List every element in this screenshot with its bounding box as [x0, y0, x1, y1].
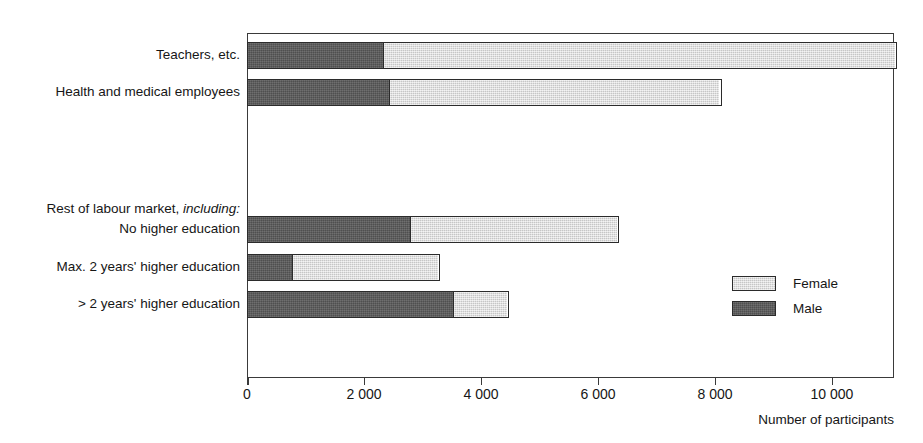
bar-no-higher-education	[247, 216, 619, 243]
bar-segment-female	[390, 80, 720, 105]
bar-segment-male	[248, 292, 454, 317]
x-axis-tick	[364, 378, 366, 385]
x-axis-tick	[247, 378, 249, 385]
category-label-max-2-years: Max. 2 years' higher education	[0, 259, 240, 275]
x-axis-title: Number of participants	[758, 412, 894, 427]
bar-segment-female	[293, 255, 437, 280]
female-swatch	[732, 276, 776, 291]
x-axis-tick-label: 6 000	[580, 386, 615, 403]
bar-max-2-years	[247, 254, 440, 281]
legend-label-female: Female	[793, 276, 838, 292]
bar-segment-male	[248, 217, 411, 242]
bar-segment-male	[248, 80, 390, 105]
bar-segment-female	[384, 43, 895, 68]
bar-health	[247, 79, 722, 106]
x-axis-tick	[598, 378, 600, 385]
x-axis-tick	[715, 378, 717, 385]
bar-segment-male	[248, 43, 384, 68]
male-swatch	[732, 301, 776, 316]
category-label-teachers: Teachers, etc.	[0, 47, 240, 63]
rest-label-including: including:	[183, 201, 240, 216]
bar-segment-female	[454, 292, 507, 317]
x-axis-tick-label: 10 000	[811, 386, 854, 403]
category-label-gt-2-years: > 2 years' higher education	[0, 296, 240, 312]
category-label-health: Health and medical employees	[0, 84, 240, 100]
x-axis-tick-label: 2 000	[346, 386, 381, 403]
x-axis-tick	[832, 378, 834, 385]
x-axis-tick	[481, 378, 483, 385]
bar-teachers	[247, 42, 897, 69]
bar-segment-male	[248, 255, 293, 280]
x-axis-tick-label: 0	[243, 386, 251, 403]
category-label-rest-of-labour-market: Rest of labour market, including:	[0, 201, 240, 217]
stacked-bar-chart: Teachers, etc. Health and medical employ…	[0, 0, 923, 443]
bar-segment-female	[411, 217, 618, 242]
legend-label-male: Male	[793, 301, 822, 317]
rest-label-text: Rest of labour market,	[46, 201, 183, 216]
category-label-no-higher-education: No higher education	[0, 221, 240, 237]
bar-gt-2-years	[247, 291, 509, 318]
x-axis-tick-label: 4 000	[463, 386, 498, 403]
x-axis-tick-label: 8 000	[697, 386, 732, 403]
